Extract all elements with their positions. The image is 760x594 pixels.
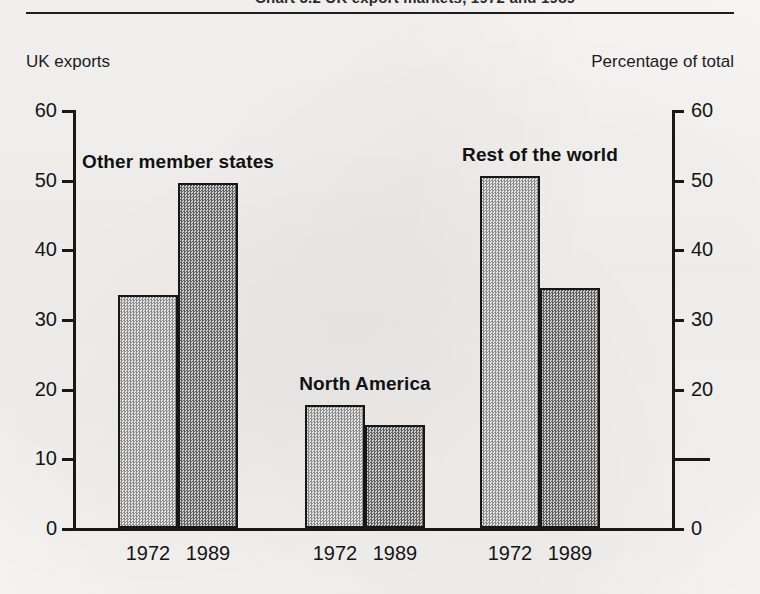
bar-other-member-states-1972: [118, 295, 178, 528]
y-axis-left-label-10: 10: [35, 448, 57, 468]
clipped-page-title: Chart 5.2 UK export markets, 1972 and 19…: [255, 0, 675, 9]
x-axis-year-label-rest-of-the-world-1989: 1989: [548, 542, 593, 565]
x-axis-year-label-rest-of-the-world-1972: 1972: [488, 542, 533, 565]
clipped-page-title-text: Chart 5.2 UK export markets, 1972 and 19…: [255, 0, 675, 6]
bar-north-america-1989: [365, 425, 425, 528]
chart-caption-left: UK exports: [26, 52, 110, 72]
header-rule: [26, 12, 734, 14]
tick-mark-right-20: [672, 389, 684, 392]
y-axis-right-label-0: 0: [691, 518, 702, 538]
tick-mark-left-50: [62, 180, 74, 183]
tick-mark-left-60: [62, 110, 74, 113]
x-axis-year-label-north-america-1989: 1989: [373, 542, 418, 565]
plot-area: 001020203030404050506060 Other member st…: [73, 110, 675, 531]
y-axis-left-label-50: 50: [35, 170, 57, 190]
bar-rest-of-the-world-1989: [540, 288, 600, 528]
bar-other-member-states-1989: [178, 183, 238, 528]
tick-mark-right-30: [672, 319, 684, 322]
y-axis-right-label-20: 20: [691, 379, 713, 399]
x-axis-year-label-other-member-states-1989: 1989: [186, 542, 231, 565]
tick-mark-right-10: [672, 458, 710, 461]
chart-caption-right: Percentage of total: [591, 52, 734, 72]
bar-north-america-1972: [305, 405, 365, 528]
y-axis-left-label-0: 0: [46, 518, 57, 538]
x-axis: [73, 528, 675, 531]
tick-mark-right-40: [672, 249, 684, 252]
y-axis-left-label-30: 30: [35, 309, 57, 329]
y-axis-right-label-30: 30: [691, 309, 713, 329]
x-axis-year-label-north-america-1972: 1972: [313, 542, 358, 565]
bar-rest-of-the-world-1972: [480, 176, 540, 528]
tick-mark-left-0: [62, 528, 74, 531]
tick-mark-right-0: [672, 528, 684, 531]
tick-mark-left-40: [62, 249, 74, 252]
tick-mark-left-10: [62, 458, 74, 461]
chart-figure: Chart 5.2 UK export markets, 1972 and 19…: [0, 0, 760, 594]
group-label-rest-of-the-world: Rest of the world: [462, 144, 618, 166]
group-label-other-member-states: Other member states: [82, 151, 274, 173]
y-axis-right-label-50: 50: [691, 170, 713, 190]
tick-mark-right-50: [672, 180, 684, 183]
tick-mark-left-30: [62, 319, 74, 322]
y-axis-left-label-60: 60: [35, 100, 57, 120]
y-axis-left-label-40: 40: [35, 239, 57, 259]
tick-mark-right-60: [672, 110, 684, 113]
y-axis-right-label-60: 60: [691, 100, 713, 120]
y-axis-right-label-40: 40: [691, 239, 713, 259]
x-axis-year-label-other-member-states-1972: 1972: [126, 542, 171, 565]
y-axis-left-label-20: 20: [35, 379, 57, 399]
group-label-north-america: North America: [299, 373, 431, 395]
tick-mark-left-20: [62, 389, 74, 392]
